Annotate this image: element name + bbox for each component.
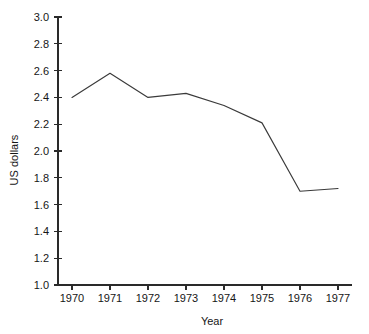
y-axis: 1.01.21.41.61.82.02.22.42.62.83.0 <box>34 11 62 291</box>
y-tick-label: 3.0 <box>34 11 49 23</box>
line-chart: 1.01.21.41.61.82.02.22.42.62.83.0 197019… <box>0 0 369 334</box>
y-tick-label: 1.8 <box>34 172 49 184</box>
series-line-us-dollars <box>72 73 338 191</box>
y-tick-label: 1.2 <box>34 252 49 264</box>
y-tick-label: 1.0 <box>34 279 49 291</box>
y-tick-label: 1.6 <box>34 199 49 211</box>
y-tick-label: 1.4 <box>34 225 49 237</box>
x-tick-label: 1977 <box>326 292 350 304</box>
y-tick-label: 2.8 <box>34 38 49 50</box>
x-tick-label: 1975 <box>250 292 274 304</box>
y-tick-label: 2.2 <box>34 118 49 130</box>
chart-canvas: 1.01.21.41.61.82.02.22.42.62.83.0 197019… <box>0 0 369 334</box>
y-tick-label: 2.6 <box>34 65 49 77</box>
x-tick-label: 1970 <box>60 292 84 304</box>
x-tick-label: 1971 <box>98 292 122 304</box>
data-series <box>72 73 338 191</box>
x-axis: 19701971197219731974197519761977 <box>58 285 352 304</box>
x-tick-label: 1973 <box>174 292 198 304</box>
y-tick-label: 2.0 <box>34 145 49 157</box>
x-tick-label: 1972 <box>136 292 160 304</box>
x-tick-label: 1976 <box>288 292 312 304</box>
x-axis-title: Year <box>201 315 224 327</box>
y-tick-label: 2.4 <box>34 91 49 103</box>
x-tick-label: 1974 <box>212 292 236 304</box>
y-axis-title: US dollars <box>8 134 20 185</box>
